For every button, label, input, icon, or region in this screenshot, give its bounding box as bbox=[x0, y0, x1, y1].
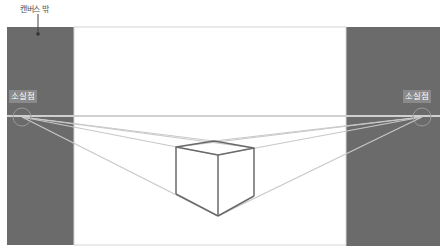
outside-canvas-left bbox=[7, 27, 74, 245]
callout-dot bbox=[36, 32, 40, 36]
right-vanishing-point-label: 소실점 bbox=[403, 90, 431, 103]
outside-canvas-right bbox=[346, 27, 440, 246]
left-vanishing-point-label: 소실점 bbox=[9, 90, 37, 103]
outside-canvas-label: 캔버스 밖 bbox=[20, 3, 49, 14]
two-point-perspective-diagram: 캔버스 밖 소실점 소실점 bbox=[0, 0, 440, 249]
